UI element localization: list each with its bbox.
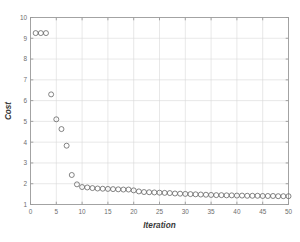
grid-lines (31, 18, 289, 205)
y-tick-label: 5 (23, 118, 27, 125)
data-point-marker (33, 31, 38, 36)
y-tick-label: 4 (23, 139, 27, 146)
cost-vs-iteration-chart: 05101520253035404550 12345678910 Iterati… (0, 0, 300, 242)
data-point-marker (229, 193, 234, 198)
data-point-marker (74, 182, 79, 187)
x-axis-title: Iteration (143, 221, 175, 230)
x-tick-label: 10 (79, 208, 87, 215)
data-point-marker (214, 193, 219, 198)
x-tick-label: 50 (285, 208, 293, 215)
y-tick-labels: 12345678910 (20, 14, 28, 208)
x-tick-label: 30 (182, 208, 190, 215)
data-point-marker (172, 191, 177, 196)
data-point-marker (198, 192, 203, 197)
y-tick-label: 2 (23, 180, 27, 187)
y-tick-label: 7 (23, 76, 27, 83)
data-point-marker (69, 172, 74, 177)
y-tick-label: 9 (23, 35, 27, 42)
data-point-marker (142, 190, 147, 195)
data-point-marker (193, 192, 198, 197)
data-point-marker (265, 193, 270, 198)
data-point-marker (162, 190, 167, 195)
data-point-marker (111, 187, 116, 192)
data-point-marker (49, 92, 54, 97)
y-tick-label: 10 (20, 14, 28, 21)
data-point-marker (64, 143, 69, 148)
y-tick-label: 1 (23, 201, 27, 208)
x-tick-label: 20 (130, 208, 138, 215)
data-point-marker (136, 189, 141, 194)
x-tick-labels: 05101520253035404550 (29, 208, 293, 215)
x-tick-label: 5 (55, 208, 59, 215)
data-point-marker (43, 31, 48, 36)
x-tick-label: 45 (259, 208, 267, 215)
data-point-marker (152, 190, 157, 195)
x-tick-label: 40 (233, 208, 241, 215)
data-point-marker (245, 193, 250, 198)
data-point-marker (203, 192, 208, 197)
data-point-marker (167, 191, 172, 196)
data-point-marker (100, 186, 105, 191)
data-point-marker (38, 31, 43, 36)
data-point-marker (240, 193, 245, 198)
data-point-marker (59, 127, 64, 132)
data-point-marker (85, 185, 90, 190)
data-point-marker (178, 191, 183, 196)
data-point-marker (276, 194, 281, 199)
y-tick-label: 8 (23, 55, 27, 62)
x-tick-label: 15 (104, 208, 112, 215)
x-tick-label: 35 (208, 208, 216, 215)
data-point-marker (90, 186, 95, 191)
data-point-marker (121, 187, 126, 192)
data-point-marker (126, 187, 131, 192)
data-point-marker (95, 186, 100, 191)
data-markers (33, 31, 291, 199)
data-point-marker (147, 190, 152, 195)
data-point-marker (250, 193, 255, 198)
data-point-marker (224, 193, 229, 198)
y-axis-title: Cost (4, 102, 13, 120)
data-point-marker (281, 194, 286, 199)
x-tick-label: 0 (29, 208, 33, 215)
y-tick-label: 6 (23, 97, 27, 104)
x-tick-label: 25 (156, 208, 164, 215)
data-point-marker (219, 193, 224, 198)
y-tick-label: 3 (23, 159, 27, 166)
data-point-marker (255, 193, 260, 198)
data-point-marker (188, 192, 193, 197)
data-point-marker (116, 187, 121, 192)
data-point-marker (271, 193, 276, 198)
figure-canvas: 05101520253035404550 12345678910 Iterati… (0, 0, 300, 242)
